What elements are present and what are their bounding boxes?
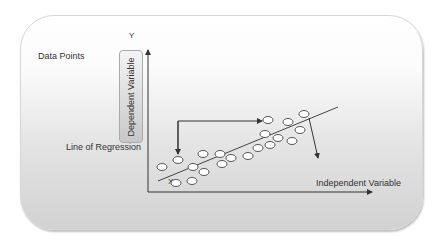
data-point <box>265 142 275 149</box>
scatter-plot <box>0 0 442 242</box>
data-point <box>215 151 225 158</box>
data-point <box>157 164 167 171</box>
data-point <box>187 178 197 185</box>
data-point <box>217 161 227 168</box>
data-point <box>199 169 209 176</box>
data-point <box>295 127 305 134</box>
data-point <box>299 111 309 118</box>
data-point <box>171 180 181 187</box>
data-point <box>263 117 273 124</box>
data-point <box>253 145 263 152</box>
data-point <box>243 153 253 160</box>
regression-line <box>158 107 338 181</box>
data-point <box>273 135 283 142</box>
data-points <box>157 111 309 187</box>
data-point <box>188 164 198 171</box>
connector-arrow <box>178 121 262 152</box>
data-point <box>198 151 208 158</box>
data-point <box>260 131 270 138</box>
data-point <box>283 119 293 126</box>
residual-arrow <box>309 118 318 158</box>
data-point <box>287 138 297 145</box>
data-point <box>173 157 183 164</box>
data-point <box>226 155 236 162</box>
